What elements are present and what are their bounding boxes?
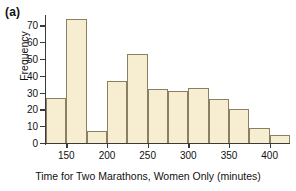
y-tick-label: 50: [27, 54, 38, 65]
x-tick-label: 250: [139, 150, 156, 161]
y-tick: [40, 42, 46, 43]
histogram-bar: [209, 99, 229, 143]
histogram-bar: [107, 81, 127, 143]
x-axis-title: Time for Two Marathons, Women Only (minu…: [0, 170, 296, 182]
histogram-bar: [168, 91, 188, 143]
y-tick-label: 30: [27, 87, 38, 98]
x-tick-label: 400: [261, 150, 278, 161]
histogram-bar: [46, 98, 66, 143]
x-tick: [229, 143, 230, 148]
x-tick: [270, 143, 271, 148]
y-tick: [40, 76, 46, 77]
y-tick-label: 70: [27, 20, 38, 31]
y-tick-label: 40: [27, 70, 38, 81]
histogram-bar: [188, 88, 208, 143]
x-tick: [107, 143, 108, 148]
x-tick-label: 350: [221, 150, 238, 161]
y-tick-label: 60: [27, 37, 38, 48]
histogram-bar: [148, 89, 168, 143]
y-tick-label: 10: [27, 121, 38, 132]
y-tick: [40, 126, 46, 127]
histogram-bar: [270, 135, 290, 143]
histogram-bar: [127, 54, 147, 143]
y-tick: [40, 59, 46, 60]
y-tick: [40, 93, 46, 94]
x-axis-line: [45, 143, 290, 144]
histogram-figure: (a) Frequency 010203040506070 1502002503…: [0, 0, 296, 191]
x-tick-label: 300: [180, 150, 197, 161]
y-tick: [40, 143, 46, 144]
histogram-bar: [229, 109, 249, 143]
x-tick: [66, 143, 67, 148]
x-tick-label: 200: [99, 150, 116, 161]
y-tick-label: 20: [27, 104, 38, 115]
plot-area: 010203040506070 150200250300350400: [46, 17, 290, 143]
y-tick: [40, 109, 46, 110]
y-tick-label: 0: [32, 138, 38, 149]
x-tick: [188, 143, 189, 148]
y-tick: [40, 25, 46, 26]
histogram-bar: [249, 128, 269, 143]
x-tick: [148, 143, 149, 148]
x-tick-label: 150: [58, 150, 75, 161]
histogram-bar: [66, 19, 86, 143]
histogram-bar: [87, 131, 107, 143]
